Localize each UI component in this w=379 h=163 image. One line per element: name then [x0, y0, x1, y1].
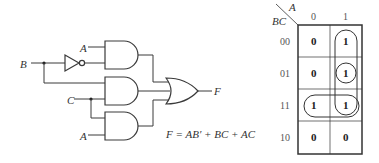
output-label-f: F — [213, 85, 221, 97]
kmap-row-header-10: 10 — [280, 132, 290, 143]
and-gate-1 — [105, 41, 138, 69]
wire-and1-to-or — [138, 55, 169, 82]
and-gate-3 — [105, 112, 138, 140]
input-label-a-top: A — [79, 42, 87, 54]
logic-diagram: B A C A F F = AB′ + BC + AC A BC — [0, 0, 379, 163]
input-label-a-bottom: A — [79, 130, 87, 142]
kmap-cell-00-1: 1 — [343, 35, 349, 47]
not-gate — [65, 55, 105, 71]
kmap-cell-01-1: 1 — [343, 67, 349, 79]
kmap-row-var: BC — [272, 15, 287, 27]
kmap-cell-11-1: 1 — [343, 99, 349, 111]
kmap-cell-11-0: 1 — [311, 99, 317, 111]
and-gate-2 — [105, 77, 138, 105]
kmap-row-header-01: 01 — [280, 68, 290, 79]
kmap-col-header-1: 1 — [343, 11, 348, 22]
input-label-c: C — [67, 94, 75, 106]
karnaugh-map: A BC 0 1 00 01 11 10 0 1 0 1 1 1 0 0 — [272, 1, 362, 154]
kmap-row-header-00: 00 — [280, 36, 290, 47]
or-gate — [166, 78, 198, 104]
wire-and3-to-or — [138, 100, 169, 126]
wire-c — [74, 97, 105, 118]
kmap-col-var: A — [288, 1, 296, 13]
kmap-cell-01-0: 0 — [311, 67, 317, 79]
boolean-equation: F = AB′ + BC + AC — [165, 128, 256, 140]
kmap-col-header-0: 0 — [311, 11, 316, 22]
kmap-cell-10-1: 0 — [343, 131, 349, 143]
input-label-b: B — [20, 58, 27, 70]
kmap-cell-00-0: 0 — [311, 35, 317, 47]
kmap-cell-10-0: 0 — [311, 131, 317, 143]
kmap-row-header-11: 11 — [280, 100, 290, 111]
